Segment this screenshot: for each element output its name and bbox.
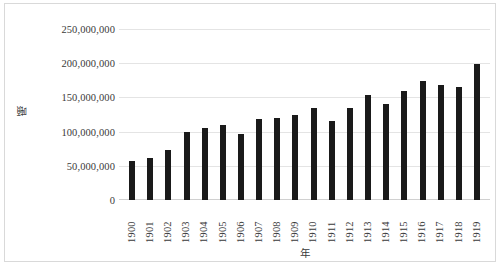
bar[interactable] [202, 128, 208, 201]
x-axis-tick-label: 1904 [199, 203, 210, 243]
bar[interactable] [220, 125, 226, 200]
x-tick-slot: 1902 [159, 203, 177, 243]
bar-slot [450, 29, 468, 200]
bar[interactable] [238, 134, 244, 200]
bar[interactable] [129, 161, 135, 200]
bar[interactable] [184, 132, 190, 200]
bar[interactable] [274, 118, 280, 200]
bar[interactable] [383, 104, 389, 200]
y-axis-tick-label: 200,000,000 [61, 58, 115, 69]
x-tick-slot: 1900 [123, 203, 141, 243]
x-tick-slot: 1917 [432, 203, 450, 243]
y-axis-tick-label: 0 [110, 195, 115, 206]
bar[interactable] [329, 121, 335, 200]
x-tick-slot: 1915 [395, 203, 413, 243]
x-tick-slot: 1918 [450, 203, 468, 243]
x-axis-tick-label: 1915 [399, 203, 410, 243]
bar[interactable] [256, 119, 262, 200]
bar-slot [214, 29, 232, 200]
x-axis-tick-label: 1918 [454, 203, 465, 243]
bar[interactable] [292, 115, 298, 201]
y-axis-tick-label: 150,000,000 [61, 92, 115, 103]
x-axis-tick-label: 1919 [472, 203, 483, 243]
bar[interactable] [401, 91, 407, 200]
x-axis-tick-label: 1913 [363, 203, 374, 243]
x-axis-tick-label: 1909 [290, 203, 301, 243]
x-axis-tick-label: 1906 [236, 203, 247, 243]
x-axis-tick-label: 1907 [254, 203, 265, 243]
y-axis-tick-labels: 250,000,000 200,000,000 150,000,000 100,… [15, 29, 115, 200]
x-tick-slot: 1905 [214, 203, 232, 243]
bar[interactable] [438, 85, 444, 200]
x-axis-tick-labels: 1900190119021903190419051906190719081909… [119, 203, 490, 243]
bar-slot [468, 29, 486, 200]
bar-slot [432, 29, 450, 200]
bar-slot [359, 29, 377, 200]
x-tick-slot: 1909 [286, 203, 304, 243]
x-tick-slot: 1914 [377, 203, 395, 243]
x-tick-slot: 1910 [305, 203, 323, 243]
x-tick-slot: 1916 [414, 203, 432, 243]
bar[interactable] [420, 81, 426, 200]
bar-slot [196, 29, 214, 200]
x-axis-tick-label: 1912 [345, 203, 356, 243]
x-tick-slot: 1911 [323, 203, 341, 243]
bar[interactable] [347, 108, 353, 200]
y-axis-tick-label: 100,000,000 [61, 126, 115, 137]
bar-slot [232, 29, 250, 200]
bar[interactable] [474, 64, 480, 200]
x-axis-tick-label: 1900 [127, 203, 138, 243]
bar-slot [341, 29, 359, 200]
x-tick-slot: 1904 [196, 203, 214, 243]
x-axis-tick-label: 1908 [272, 203, 283, 243]
x-tick-slot: 1913 [359, 203, 377, 243]
x-tick-slot: 1901 [141, 203, 159, 243]
bar[interactable] [456, 87, 462, 200]
bar[interactable] [147, 158, 153, 200]
x-axis-tick-label: 1917 [435, 203, 446, 243]
bar-slot [323, 29, 341, 200]
bar-slot [377, 29, 395, 200]
bar-slot [123, 29, 141, 200]
bar[interactable] [165, 150, 171, 200]
chart-frame: 250,000,000 200,000,000 150,000,000 100,… [4, 3, 496, 262]
x-axis-tick-label: 1905 [218, 203, 229, 243]
x-tick-slot: 1903 [177, 203, 195, 243]
bar-slot [250, 29, 268, 200]
bar-slot [305, 29, 323, 200]
bar-slot [414, 29, 432, 200]
bar-slot [141, 29, 159, 200]
x-axis-tick-label: 1903 [181, 203, 192, 243]
x-tick-slot: 1919 [468, 203, 486, 243]
bar-slot [159, 29, 177, 200]
x-axis-tick-label: 1910 [308, 203, 319, 243]
x-axis-title: 年 [119, 245, 490, 260]
bar-slot [395, 29, 413, 200]
bar-slot [268, 29, 286, 200]
x-tick-slot: 1908 [268, 203, 286, 243]
x-tick-slot: 1907 [250, 203, 268, 243]
plot-area [119, 29, 490, 200]
x-tick-slot: 1912 [341, 203, 359, 243]
x-tick-slot: 1906 [232, 203, 250, 243]
bar-slot [286, 29, 304, 200]
x-axis-tick-label: 1911 [327, 203, 338, 243]
x-axis-tick-label: 1902 [163, 203, 174, 243]
y-axis-title: 噸 [18, 105, 29, 116]
y-axis-tick-label: 250,000,000 [61, 24, 115, 35]
x-axis-tick-label: 1916 [417, 203, 428, 243]
y-axis-tick-label: 50,000,000 [67, 160, 115, 171]
bar[interactable] [311, 108, 317, 200]
bar-series [119, 29, 490, 200]
bar-slot [177, 29, 195, 200]
bar[interactable] [365, 95, 371, 200]
x-axis-tick-label: 1901 [145, 203, 156, 243]
x-axis-tick-label: 1914 [381, 203, 392, 243]
